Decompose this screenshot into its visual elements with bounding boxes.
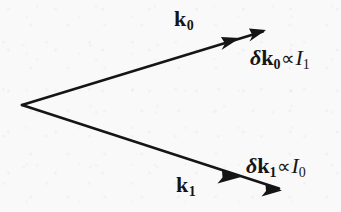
annotation-upper-intensity: I — [296, 45, 303, 70]
annotation-lower-intensity-subscript: 0 — [299, 165, 306, 180]
annotation-upper-subscript: 0 — [274, 57, 281, 72]
wave-vector-diagram: k0 k1 δk0∝I1 δk1∝I0 — [0, 0, 341, 212]
annotation-lower-symbol: k — [257, 153, 269, 178]
annotation-upper-delta: δ — [250, 45, 261, 70]
label-vector-k1-symbol: k — [176, 172, 188, 197]
annotation-lower-relation: ∝ — [277, 156, 291, 177]
annotation-lower-intensity: I — [292, 153, 299, 178]
annotation-upper-intensity-subscript: 1 — [303, 57, 310, 72]
annotation-lower-subscript: 1 — [270, 165, 277, 180]
label-vector-k0-symbol: k — [174, 6, 186, 31]
vector-lines-group — [0, 0, 341, 212]
annotation-delta-k0: δk0∝I1 — [250, 47, 310, 72]
annotation-delta-k1: δk1∝I0 — [246, 155, 306, 180]
label-vector-k1: k1 — [176, 174, 196, 199]
annotation-upper-relation: ∝ — [281, 48, 295, 69]
vector-k1-shaft — [22, 105, 279, 189]
annotation-upper-symbol: k — [261, 45, 273, 70]
vector-k1 — [22, 105, 282, 197]
vector-k0 — [22, 29, 266, 106]
label-vector-k1-subscript: 1 — [189, 184, 196, 199]
annotation-lower-delta: δ — [246, 153, 257, 178]
label-vector-k0: k0 — [174, 8, 194, 33]
label-vector-k0-subscript: 0 — [187, 18, 194, 33]
